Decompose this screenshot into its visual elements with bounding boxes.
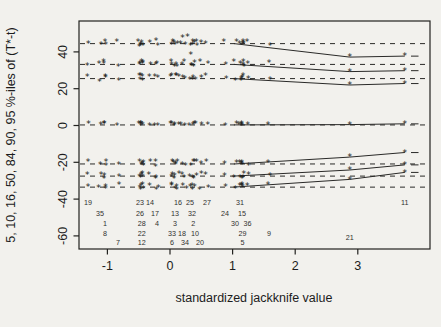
case-11-point: * (403, 51, 408, 61)
scatter-point: * (268, 75, 273, 85)
case-number-label: 13 (171, 209, 179, 218)
scatter-point: * (115, 121, 120, 131)
case-percentile-line (234, 44, 405, 58)
scatter-point: * (103, 37, 108, 47)
scatter-point: * (246, 170, 251, 180)
case-number-label: 24 (221, 209, 229, 218)
figure-container: ****************************************… (0, 0, 441, 327)
x-axis-tick-label: 0 (167, 259, 174, 273)
scatter-point: * (86, 182, 91, 192)
scatter-point: * (223, 182, 228, 192)
case-11-point: * (403, 148, 408, 158)
case-number-label: 23 (136, 198, 144, 207)
case-number-label: 26 (136, 209, 144, 218)
scatter-point: * (86, 119, 91, 129)
scatter-point: * (153, 157, 158, 167)
case-number-label: 5 (241, 238, 245, 247)
x-axis-tick-label: -1 (102, 259, 113, 273)
scatter-point: * (223, 60, 228, 70)
scatter-point: * (239, 119, 244, 129)
y-axis-tick-label: -20 (56, 153, 70, 171)
scatter-point: * (245, 59, 250, 69)
scatter-point: * (117, 180, 122, 190)
case-number-label: 2 (191, 219, 195, 228)
case-number-label: 36 (244, 219, 252, 228)
scatter-point: * (222, 159, 227, 169)
scatter-point: * (104, 161, 109, 171)
scatter-point: * (206, 183, 211, 193)
y-axis-tick-label: 20 (56, 82, 70, 96)
scatter-point: * (266, 120, 271, 130)
case-21-point: * (347, 152, 352, 162)
case-number-label: 9 (267, 229, 271, 238)
scatter-point: * (116, 160, 121, 170)
case-percentile-line (234, 79, 405, 85)
case-number-label: 7 (116, 238, 120, 247)
case-number-label: 18 (178, 229, 186, 238)
scatter-point: * (147, 170, 152, 180)
scatter-point: * (198, 57, 203, 67)
scatter-point: * (239, 74, 244, 84)
case-number-label: 4 (155, 219, 159, 228)
case-21-point: * (347, 67, 352, 77)
case-11-point: * (403, 79, 408, 89)
scatter-point: * (102, 59, 107, 69)
scatter-point: * (205, 120, 210, 130)
scatter-point: * (148, 38, 153, 48)
scatter-point: * (141, 41, 146, 51)
scatter-point: * (116, 62, 121, 72)
case-number-label: 22 (138, 229, 146, 238)
case-11-point: * (403, 66, 408, 76)
scatter-point: * (156, 183, 161, 193)
case-11-point: * (403, 119, 408, 129)
case-number-label: 34 (181, 238, 189, 247)
scatter-point: * (156, 121, 161, 131)
scatter-point: * (147, 72, 152, 82)
case-11-point: * (403, 168, 408, 178)
case-21-point: * (347, 120, 352, 130)
case-number-label: 30 (231, 219, 239, 228)
scatter-point: * (175, 185, 180, 195)
case-number-label: 21 (346, 233, 354, 242)
scatter-point: * (222, 171, 227, 181)
scatter-point: * (86, 157, 91, 167)
x-axis-tick-label: 2 (292, 259, 299, 273)
case-number-label: 3 (173, 219, 177, 228)
case-number-label: 16 (174, 198, 182, 207)
scatter-point: * (85, 170, 90, 180)
case-number-label: 25 (186, 198, 194, 207)
scatter-point: * (199, 120, 204, 130)
plot-frame (79, 21, 430, 249)
scatter-point: * (148, 60, 153, 70)
case-number-label: 15 (238, 209, 246, 218)
case-number-label: 31 (236, 198, 244, 207)
case-number-label: 27 (203, 198, 211, 207)
scatter-point: * (116, 76, 121, 86)
scatter-point: * (103, 184, 108, 194)
scatter-point: * (193, 75, 198, 85)
scatter-point: * (86, 39, 91, 49)
scatter-point: * (203, 39, 208, 49)
case-number-label: 28 (138, 219, 146, 228)
case-number-label: 11 (401, 198, 408, 207)
scatter-point: * (232, 173, 237, 183)
scatter-point: * (245, 37, 250, 47)
case-21-point: * (347, 175, 352, 185)
plot-content: ****************************************… (56, 21, 430, 273)
case-21-point: * (347, 52, 352, 62)
case-number-label: 35 (96, 209, 104, 218)
case-number-label: 29 (239, 229, 247, 238)
y-axis-tick-label: 0 (56, 122, 70, 129)
case-number-label: 33 (168, 229, 176, 238)
y-axis-tick-label: -60 (56, 227, 70, 245)
scatter-point: * (182, 57, 187, 67)
case-number-label: 6 (170, 238, 174, 247)
scatter-point: * (155, 73, 160, 83)
scatter-point: * (139, 71, 144, 81)
scatter-point: * (147, 181, 152, 191)
scatter-point: * (85, 72, 90, 82)
scatter-point: * (221, 37, 226, 47)
plot-svg: ****************************************… (0, 0, 441, 327)
scatter-point: * (206, 59, 211, 69)
case-percentile-line (234, 153, 405, 165)
